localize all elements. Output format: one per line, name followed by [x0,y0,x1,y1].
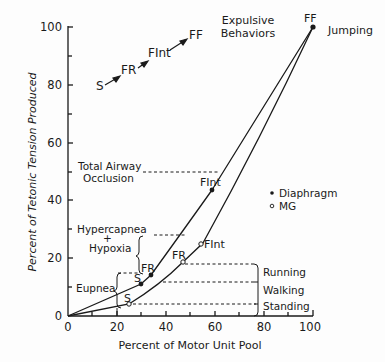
svg-text:FInt: FInt [204,238,226,251]
svg-text:100: 100 [40,20,62,34]
svg-text:Jumping: Jumping [327,24,373,37]
svg-text:80: 80 [257,320,272,334]
svg-text:S: S [134,272,141,285]
svg-text:Behaviors: Behaviors [221,27,276,40]
filled-circle-icon [270,191,274,195]
locomotor-brace [254,264,258,316]
svg-text:Diaphragm: Diaphragm [279,187,337,199]
x-tick-labels: 0 20 40 60 80 100 [64,320,321,334]
chart-canvas: 100 80 60 40 20 0 0 20 40 60 80 100 Perc… [0,0,385,362]
svg-text:FF: FF [304,12,317,25]
svg-text:Walking: Walking [263,284,304,296]
svg-text:20: 20 [47,251,62,265]
svg-text:MG: MG [279,200,296,212]
svg-text:40: 40 [47,193,62,207]
arrow-head-icon [141,61,148,67]
locomotor-annotations: Running Walking Standing [263,266,310,312]
svg-text:Total Airway: Total Airway [77,160,142,172]
svg-text:S: S [124,292,131,305]
svg-text:Eupnea: Eupnea [76,282,116,294]
svg-text:FR: FR [172,249,186,262]
svg-text:100: 100 [299,320,321,334]
open-circle-icon [270,204,274,208]
svg-text:Occlusion: Occlusion [83,172,134,184]
mg-fint-point [199,242,203,246]
svg-text:0: 0 [64,320,71,334]
svg-text:Standing: Standing [263,300,310,312]
recruitment-order: S FR FInt FF [96,28,203,93]
top-annotations: Expulsive Behaviors FF Jumping [221,12,373,40]
svg-text:FR: FR [121,63,136,77]
svg-text:80: 80 [47,78,62,92]
arrow-head-icon [113,76,120,82]
ff-point [310,24,315,29]
y-tick-labels: 100 80 60 40 20 0 [40,20,62,323]
svg-text:FR: FR [141,262,155,275]
y-axis-title: Percent of Tetonic Tension Produced [26,71,39,271]
svg-text:Hypercapnea: Hypercapnea [77,223,147,235]
svg-text:Running: Running [263,266,306,278]
arrow-head-icon [180,39,187,45]
diaphragm-markers [139,24,316,286]
svg-text:FF: FF [189,28,203,42]
legend: Diaphragm MG [270,187,337,212]
svg-text:60: 60 [47,136,62,150]
svg-text:60: 60 [208,320,223,334]
svg-text:40: 40 [159,320,174,334]
x-axis-title: Percent of Motor Unit Pool [119,339,262,352]
svg-text:Hypoxia: Hypoxia [89,242,131,254]
svg-text:Expulsive: Expulsive [222,14,275,27]
svg-text:S: S [96,79,104,93]
svg-text:0: 0 [55,309,62,323]
svg-text:20: 20 [110,320,125,334]
svg-text:FInt: FInt [200,176,222,189]
svg-text:FInt: FInt [148,46,171,60]
eupnea-brace [114,273,121,308]
